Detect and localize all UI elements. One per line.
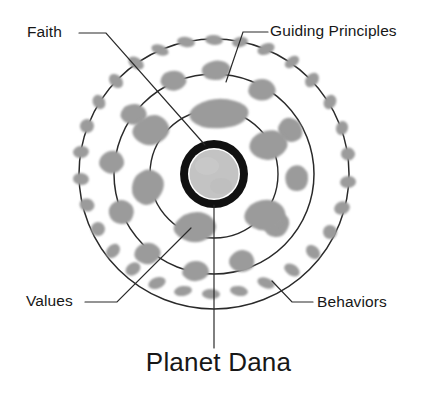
label-guiding-principles: Guiding Principles: [270, 23, 397, 39]
label-faith: Faith: [27, 24, 62, 40]
core-shadow: [210, 178, 232, 194]
diagram-canvas: Faith Guiding Principles Values Behavior…: [0, 0, 437, 396]
label-values: Values: [26, 293, 73, 309]
diagram-title-planet-dana: Planet Dana: [0, 349, 437, 375]
planet-core: [180, 140, 248, 208]
core-highlight: [195, 157, 219, 175]
label-behaviors: Behaviors: [317, 294, 387, 310]
orbit-diagram-graphic: [0, 0, 437, 396]
